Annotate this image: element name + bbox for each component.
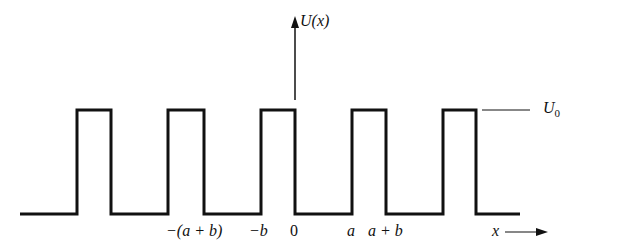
tick-label-zero: 0 <box>290 222 298 240</box>
tick-label-neg-b: −b <box>249 222 268 240</box>
tick-label-neg-a-plus-b: −(a + b) <box>166 222 222 240</box>
barrier-height-label: U0 <box>543 99 560 119</box>
tick-label-a-plus-b: a + b <box>368 222 403 240</box>
tick-label-a: a <box>347 222 355 240</box>
potential-waveform <box>20 110 520 214</box>
y-axis-label: U(x) <box>300 12 329 30</box>
y-axis-arrow-icon <box>291 16 299 28</box>
x-axis-label: x <box>492 222 499 240</box>
potential-diagram <box>0 0 620 245</box>
x-axis-arrow-icon <box>536 228 548 236</box>
